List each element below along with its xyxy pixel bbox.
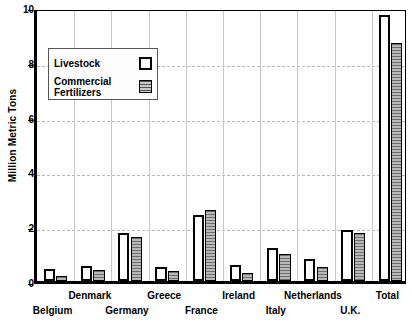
bar-italy-fertilizer	[279, 254, 290, 281]
bar-total-livestock	[379, 15, 390, 281]
vertical-gridline	[372, 11, 373, 281]
y-tick-label: 8	[0, 60, 34, 70]
hatched-box-swatch-icon	[139, 80, 152, 93]
bar-netherlands-fertilizer	[317, 267, 328, 281]
bar-france-livestock	[193, 215, 204, 281]
bar-greece-fertilizer	[168, 271, 179, 281]
bar-belgium-livestock	[44, 269, 55, 281]
bar-ireland-fertilizer	[242, 273, 253, 281]
legend-label-commercial-fertilizers: CommercialFertilizers	[54, 76, 111, 98]
x-axis-label-germany: Germany	[105, 305, 148, 316]
vertical-gridline	[260, 11, 261, 281]
vertical-gridline	[223, 11, 224, 281]
y-axis-title: Million Metric Tons	[7, 66, 18, 206]
x-axis-label-greece: Greece	[147, 290, 181, 301]
bar-ireland-livestock	[230, 265, 241, 281]
bar-uk-fertilizer	[354, 233, 365, 281]
bar-netherlands-livestock	[304, 259, 315, 281]
x-axis-label-total: Total	[376, 290, 399, 301]
x-axis-label-ireland: Ireland	[222, 290, 255, 301]
y-tick-label: 0	[0, 279, 34, 289]
x-axis-label-italy: Italy	[266, 305, 286, 316]
x-axis-label-france: France	[185, 305, 218, 316]
y-tick-label: 10	[0, 5, 34, 15]
bar-germany-livestock	[118, 233, 129, 281]
legend-item-livestock: Livestock	[54, 52, 152, 75]
bar-greece-livestock	[155, 267, 166, 281]
x-axis-label-belgium: Belgium	[33, 305, 72, 316]
chart-legend: Livestock CommercialFertilizers	[48, 48, 158, 100]
legend-item-commercial-fertilizers: CommercialFertilizers	[54, 75, 152, 98]
bar-uk-livestock	[341, 230, 352, 281]
x-axis-label-denmark: Denmark	[68, 290, 111, 301]
horizontal-gridline	[37, 175, 405, 176]
bar-italy-livestock	[267, 248, 278, 281]
bar-france-fertilizer	[205, 210, 216, 281]
legend-label-livestock: Livestock	[54, 58, 100, 69]
vertical-gridline	[297, 11, 298, 281]
bar-germany-fertilizer	[131, 237, 142, 281]
bar-belgium-fertilizer	[56, 276, 67, 281]
x-axis-label-netherlands: Netherlands	[284, 290, 342, 301]
bar-denmark-fertilizer	[93, 270, 104, 281]
bar-denmark-livestock	[81, 266, 92, 281]
y-tick-label: 4	[0, 169, 34, 179]
x-axis-label-uk: U.K.	[340, 305, 360, 316]
horizontal-gridline	[37, 121, 405, 122]
y-tick-label: 6	[0, 115, 34, 125]
y-tick-label: 2	[0, 224, 34, 234]
vertical-gridline	[186, 11, 187, 281]
bar-chart: Million Metric Tons 1086420 BelgiumDenma…	[0, 0, 412, 323]
open-box-swatch-icon	[139, 57, 152, 70]
bar-total-fertilizer	[391, 43, 402, 281]
vertical-gridline	[335, 11, 336, 281]
